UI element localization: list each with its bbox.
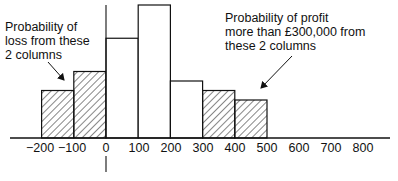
profit-arrow xyxy=(261,56,292,88)
loss-annotation-line: Probability of xyxy=(5,20,90,34)
x-tick-label: 400 xyxy=(225,141,246,155)
x-tick-label: 100 xyxy=(129,141,150,155)
x-tick-label: 0 xyxy=(103,141,110,155)
profit-annotation-line: more than £300,000 from xyxy=(225,25,365,39)
x-tick-label: 800 xyxy=(353,141,374,155)
loss-annotation: Probability of loss from these 2 columns xyxy=(5,20,90,62)
x-tick-label: −100 xyxy=(58,141,86,155)
loss-arrow xyxy=(48,62,64,80)
x-tick-label: 600 xyxy=(289,141,310,155)
profit-annotation: Probability of profit more than £300,000… xyxy=(225,11,365,53)
loss-annotation-line: 2 columns xyxy=(5,48,90,62)
x-tick-label: −200 xyxy=(26,141,54,155)
histogram-bar-shaded xyxy=(203,91,235,139)
x-tick-label: 300 xyxy=(193,141,214,155)
profit-annotation-line: Probability of profit xyxy=(225,11,365,25)
histogram-bar xyxy=(170,81,202,138)
loss-annotation-line: loss from these xyxy=(5,34,90,48)
histogram-bar xyxy=(106,38,138,138)
histogram-bar-shaded xyxy=(42,91,74,139)
histogram-bar-shaded xyxy=(74,72,106,139)
x-tick-label: 200 xyxy=(161,141,182,155)
x-tick-label: 500 xyxy=(257,141,278,155)
profit-annotation-line: these 2 columns xyxy=(225,39,365,53)
x-tick-label: 700 xyxy=(321,141,342,155)
histogram-bar-shaded xyxy=(235,100,267,138)
histogram-bar xyxy=(138,5,170,138)
